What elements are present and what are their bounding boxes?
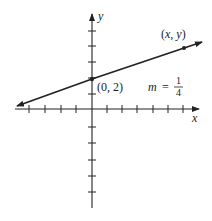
slope-annotation: m = 1 4: [148, 75, 183, 98]
slope-denominator: 4: [176, 87, 181, 98]
slope-symbol: m: [148, 80, 157, 94]
x-axis-label: x: [191, 111, 198, 125]
slope-line: [17, 42, 202, 106]
coordinate-plane: y x (0, 2) (x, y) m = 1 4: [0, 0, 212, 221]
general-point-label: (x, y): [161, 27, 186, 41]
slope-equals: =: [162, 80, 169, 94]
general-point: [182, 46, 186, 50]
intercept-point: [90, 77, 94, 81]
y-axis: [88, 14, 96, 208]
x-axis: [15, 105, 199, 113]
slope-numerator: 1: [176, 75, 181, 86]
intercept-label: (0, 2): [97, 80, 123, 94]
y-axis-label: y: [97, 9, 104, 23]
